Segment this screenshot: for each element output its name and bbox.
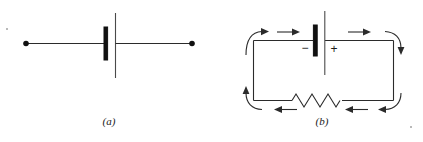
panel-b: − + bbox=[243, 11, 405, 128]
arrow-top-left-arc-head bbox=[261, 28, 269, 35]
arrow-bottom-straight-left-head bbox=[274, 106, 282, 113]
scan-speck-left bbox=[6, 28, 8, 30]
panel-a-caption: (a) bbox=[103, 115, 116, 128]
arrow-top-right-arc-head bbox=[398, 47, 405, 55]
right-terminal-dot bbox=[189, 41, 195, 47]
arrow-bottom-right-arc-head bbox=[378, 106, 386, 113]
physics-figure-battery-circuit: (a) bbox=[0, 0, 423, 142]
battery-negative-plate-b bbox=[313, 25, 317, 56]
panel-a: (a) bbox=[23, 13, 195, 128]
arrow-bottom-straight-right-head bbox=[345, 106, 353, 113]
resistor-zigzag bbox=[292, 94, 340, 107]
circuit-loop-wire bbox=[254, 41, 394, 101]
panel-b-caption: (b) bbox=[316, 115, 329, 128]
scan-speck-right bbox=[410, 126, 412, 128]
figure-root: (a) bbox=[0, 0, 423, 142]
battery-negative-plate bbox=[104, 27, 108, 60]
polarity-plus-label: + bbox=[330, 42, 337, 56]
arrow-bottom-left-arc-head bbox=[243, 86, 250, 94]
arrow-top-straight-right-head bbox=[363, 29, 371, 36]
left-terminal-dot bbox=[23, 41, 29, 47]
polarity-minus-label: − bbox=[301, 41, 308, 55]
arrow-top-straight-left-head bbox=[292, 29, 300, 36]
